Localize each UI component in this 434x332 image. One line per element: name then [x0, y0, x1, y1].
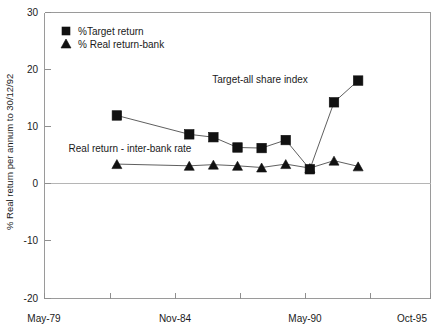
data-point-square — [353, 76, 363, 86]
data-point-square — [257, 143, 267, 153]
x-tick-label-oct-95: Oct-95 — [397, 313, 427, 324]
series-line-target-return — [117, 81, 358, 170]
data-point-triangle — [353, 162, 363, 171]
data-point-square — [185, 130, 195, 140]
y-tick-label-30: 30 — [27, 7, 39, 18]
y-axis-ticks: 30 20 10 0 -10 -20 — [24, 7, 51, 304]
y-tick-label-10: 10 — [27, 121, 39, 132]
chart-legend: %Target return % Real return-bank — [61, 26, 165, 50]
y-tick-label-neg10: -10 — [24, 235, 39, 246]
y-axis-title: % Real return per annum to 30/12/92 — [4, 74, 15, 230]
data-point-square — [209, 132, 219, 142]
plot-frame — [45, 13, 431, 299]
chart-container: 30 20 10 0 -10 -20 May-79 Nov-84 May-90 … — [0, 0, 434, 332]
legend-label-target-return: %Target return — [78, 26, 144, 37]
data-point-square — [112, 111, 122, 121]
data-point-square — [281, 135, 291, 145]
series-markers-real-return-bank — [112, 156, 363, 172]
data-point-square — [233, 143, 243, 153]
series-lines — [117, 81, 358, 170]
legend-square-marker-icon — [62, 27, 70, 35]
annotation-real-return-inter-bank-rate: Real return - inter-bank rate — [69, 143, 192, 154]
legend-triangle-marker-icon — [61, 39, 71, 48]
series-markers-target-return — [112, 76, 363, 174]
annotation-target-all-share-index: Target-all share index — [212, 74, 308, 85]
legend-label-real-return-bank: % Real return-bank — [78, 39, 165, 50]
x-tick-label-nov-84: Nov-84 — [159, 313, 192, 324]
x-axis-ticks: May-79 Nov-84 May-90 Oct-95 — [27, 293, 430, 325]
data-point-triangle — [329, 156, 339, 165]
y-tick-label-20: 20 — [27, 64, 39, 75]
data-point-triangle — [281, 160, 291, 169]
real-return-line-chart: 30 20 10 0 -10 -20 May-79 Nov-84 May-90 … — [0, 0, 434, 332]
x-tick-label-may-79: May-79 — [27, 313, 61, 324]
data-point-square — [329, 98, 339, 108]
x-tick-label-may-90: May-90 — [288, 313, 322, 324]
y-tick-label-0: 0 — [32, 178, 38, 189]
y-tick-label-neg20: -20 — [24, 293, 39, 304]
